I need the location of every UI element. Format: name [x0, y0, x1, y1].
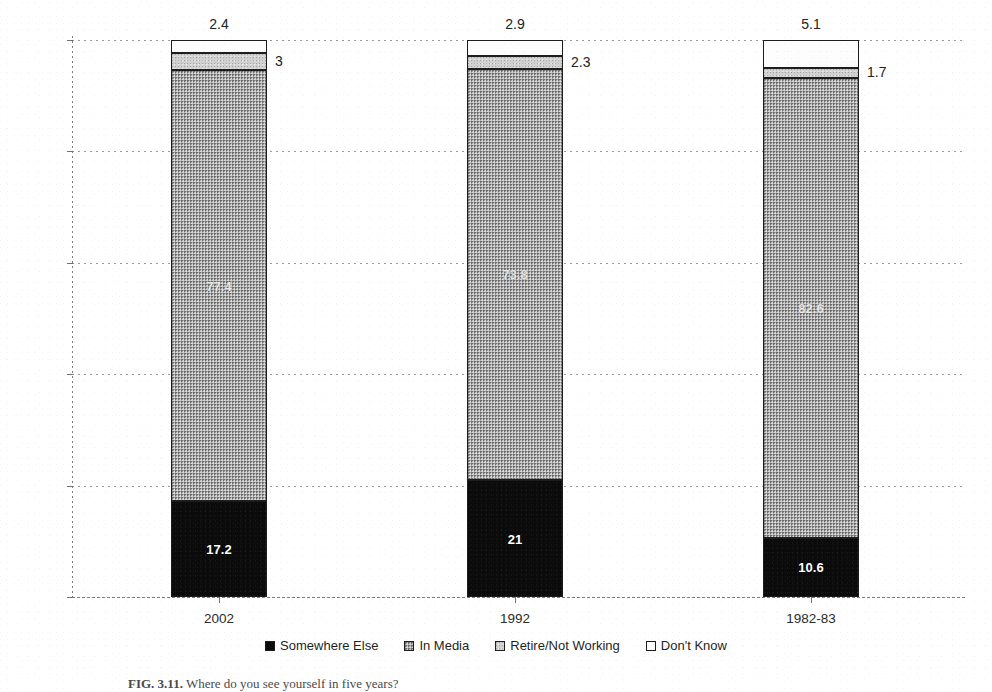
y-tick-mark — [67, 597, 73, 598]
legend-item-in-media[interactable]: In Media — [404, 638, 469, 653]
bar-segment-in-media-1982-83[interactable]: 82.6 — [763, 78, 859, 538]
chart-legend: Somewhere ElseIn MediaRetire/Not Working… — [0, 638, 992, 653]
bar-segment-retire-not-working-1992[interactable] — [467, 56, 563, 69]
legend-item-somewhere-else[interactable]: Somewhere Else — [265, 638, 378, 653]
x-axis-tick-label: 2002 — [204, 612, 234, 626]
bar-segment-don-t-know-1992[interactable] — [467, 40, 563, 56]
bar-segment-somewhere-else-1982-83[interactable]: 10.6 — [763, 538, 859, 597]
x-tick-mark — [811, 597, 812, 603]
legend-label: In Media — [419, 638, 469, 653]
y-tick-mark — [67, 374, 73, 375]
stacked-bar-2002[interactable]: 17.277.4 — [171, 40, 267, 597]
y-axis-line — [72, 36, 73, 601]
x-tick-mark — [219, 597, 220, 603]
black-filled-swatch — [265, 641, 275, 651]
bar-segment-retire-not-working-1982-83[interactable] — [763, 68, 859, 77]
y-tick-mark — [67, 151, 73, 152]
bar-segment-don-t-know-2002[interactable] — [171, 40, 267, 53]
white-outlined-swatch — [495, 641, 505, 651]
legend-label: Somewhere Else — [280, 638, 378, 653]
callout-dont-know-1992: 2.9 — [505, 17, 524, 32]
white-outlined-swatch — [646, 641, 656, 651]
gridline — [72, 597, 965, 598]
caption-text: Where do you see yourself in five years? — [186, 676, 399, 691]
stacked-bar-1982-83[interactable]: 10.682.6 — [763, 40, 859, 597]
legend-item-don-t-know[interactable]: Don't Know — [646, 638, 727, 653]
y-tick-mark — [67, 40, 73, 41]
segment-value-label: 82.6 — [764, 302, 858, 316]
gray-filled-swatch — [404, 641, 414, 651]
legend-item-retire-not-working[interactable]: Retire/Not Working — [495, 638, 620, 653]
bar-segment-somewhere-else-1992[interactable]: 21 — [467, 480, 563, 597]
legend-label: Retire/Not Working — [510, 638, 620, 653]
callout-dont-know-1982-83: 5.1 — [801, 17, 820, 32]
callout-retire-not-working-1992: 2.3 — [571, 55, 590, 70]
stacked-bar-1992[interactable]: 2173.8 — [467, 40, 563, 597]
segment-value-label: 17.2 — [172, 543, 266, 557]
bar-segment-don-t-know-1982-83[interactable] — [763, 40, 859, 68]
segment-value-label: 73.8 — [468, 268, 562, 282]
segment-value-label: 10.6 — [764, 561, 858, 575]
x-tick-mark — [515, 597, 516, 603]
bar-segment-in-media-1992[interactable]: 73.8 — [467, 69, 563, 480]
callout-retire-not-working-1982-83: 1.7 — [867, 65, 886, 80]
segment-value-label: 77.4 — [172, 280, 266, 294]
x-axis-tick-label: 1982-83 — [786, 612, 836, 626]
segment-value-label: 21 — [468, 533, 562, 547]
legend-label: Don't Know — [661, 638, 727, 653]
callout-dont-know-2002: 2.4 — [209, 17, 228, 32]
figure-number: FIG. 3.11. — [128, 676, 183, 691]
y-tick-mark — [67, 486, 73, 487]
bar-segment-retire-not-working-2002[interactable] — [171, 53, 267, 70]
chart-plot-area: 100%80%60%40%20%0% 200219921982-83 17.27… — [72, 40, 965, 597]
figure-caption: FIG. 3.11. Where do you see yourself in … — [128, 676, 888, 692]
y-tick-mark — [67, 263, 73, 264]
bar-segment-somewhere-else-2002[interactable]: 17.2 — [171, 501, 267, 597]
bar-segment-in-media-2002[interactable]: 77.4 — [171, 70, 267, 501]
callout-retire-not-working-2002: 3 — [275, 54, 283, 69]
x-axis-tick-label: 1992 — [500, 612, 530, 626]
